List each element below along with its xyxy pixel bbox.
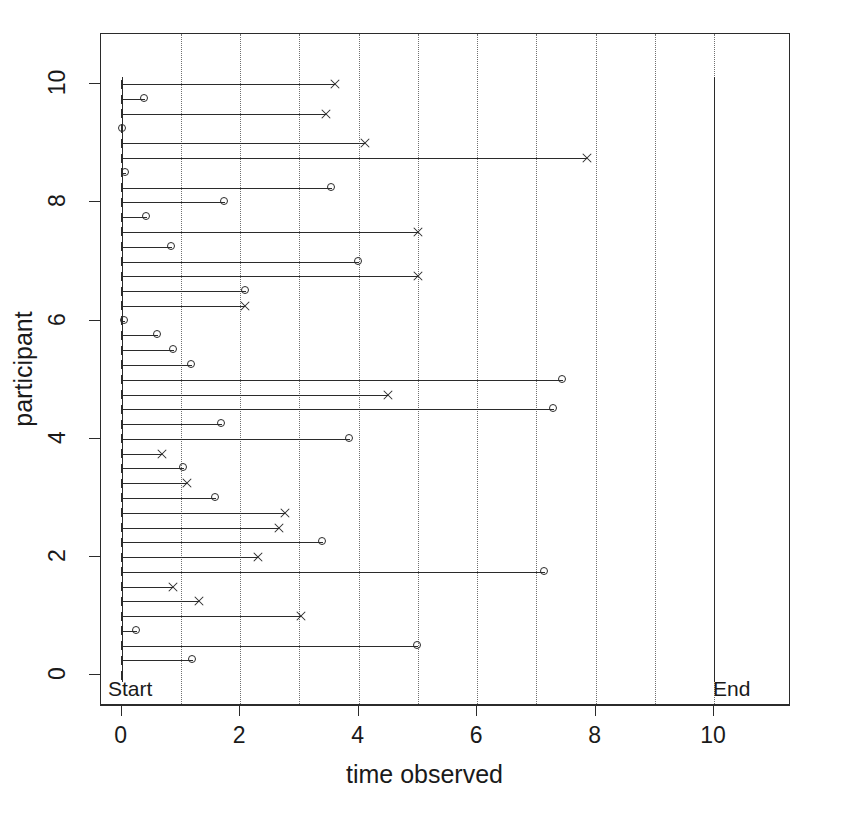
followup-segment (122, 232, 418, 233)
end-label: End (713, 678, 750, 699)
event-cross-icon (412, 226, 424, 238)
x-axis-label: time observed (0, 760, 849, 788)
censored-circle-icon (345, 434, 353, 442)
censored-circle-icon (354, 257, 362, 265)
x-tick-2 (239, 705, 240, 716)
event-cross-icon (193, 595, 205, 607)
plot-area: Start End (100, 33, 790, 705)
y-tick-label-2: 2 (46, 543, 69, 569)
followup-segment (122, 262, 359, 263)
censored-circle-icon (220, 197, 228, 205)
y-tick-label-6: 6 (46, 306, 69, 332)
y-tick-0 (89, 674, 100, 675)
x-tick-6 (476, 705, 477, 716)
followup-segment (122, 498, 217, 499)
censored-circle-icon (179, 463, 187, 471)
y-tick-label-0: 0 (46, 661, 69, 687)
followup-segment (122, 114, 326, 115)
censored-circle-icon (549, 404, 557, 412)
censored-circle-icon (327, 183, 335, 191)
event-cross-icon (295, 610, 307, 622)
grid-line-x-3 (299, 34, 300, 704)
followup-segment (122, 557, 258, 558)
event-cross-icon (279, 507, 291, 519)
event-cross-icon (382, 389, 394, 401)
x-tick-4 (358, 705, 359, 716)
followup-segment (122, 276, 418, 277)
followup-segment (122, 646, 418, 647)
followup-segment (122, 468, 184, 469)
x-tick-label-2: 2 (233, 722, 246, 748)
x-axis-line (100, 705, 790, 706)
y-tick-6 (89, 320, 100, 321)
grid-line-x-2 (240, 34, 241, 704)
event-cross-icon (412, 270, 424, 282)
followup-segment (122, 188, 332, 189)
followup-segment (122, 483, 187, 484)
censored-circle-icon (188, 655, 196, 663)
censored-circle-icon (187, 360, 195, 368)
x-tick-label-0: 0 (114, 722, 127, 748)
censored-circle-icon (241, 286, 249, 294)
censored-circle-icon (120, 316, 128, 324)
event-cross-icon (167, 581, 179, 593)
event-cross-icon (329, 78, 341, 90)
x-tick-10 (713, 705, 714, 716)
grid-line-x-8 (596, 34, 597, 704)
event-cross-icon (359, 137, 371, 149)
grid-line-x-7 (536, 34, 537, 704)
followup-segment (122, 601, 199, 602)
y-tick-4 (89, 438, 100, 439)
followup-segment (122, 350, 174, 351)
followup-segment (122, 439, 350, 440)
followup-segment (122, 247, 172, 248)
y-axis-label: participant (8, 33, 38, 705)
y-tick-2 (89, 556, 100, 557)
x-tick-label-10: 10 (700, 722, 726, 748)
censored-circle-icon (413, 641, 421, 649)
followup-segment (122, 365, 192, 366)
followup-segment (122, 572, 545, 573)
y-tick-label-10: 10 (46, 70, 69, 96)
censored-circle-icon (318, 537, 326, 545)
event-cross-icon (181, 477, 193, 489)
event-cross-icon (156, 448, 168, 460)
event-cross-icon (320, 108, 332, 120)
censored-circle-icon (540, 567, 548, 575)
followup-segment (122, 424, 223, 425)
grid-line-x-1 (181, 34, 182, 704)
followup-segment (122, 660, 193, 661)
followup-segment (122, 513, 285, 514)
event-cross-icon (273, 522, 285, 534)
censored-circle-icon (217, 419, 225, 427)
y-tick-label-8: 8 (46, 188, 69, 214)
censored-circle-icon (121, 168, 129, 176)
censored-circle-icon (167, 242, 175, 250)
followup-segment (122, 409, 554, 410)
followup-segment (122, 616, 301, 617)
followup-segment (122, 143, 365, 144)
grid-line-x-9 (655, 34, 656, 704)
followup-segment (122, 84, 335, 85)
censored-circle-icon (211, 493, 219, 501)
event-cross-icon (252, 551, 264, 563)
event-cross-icon (239, 300, 251, 312)
followup-segment (122, 542, 323, 543)
censored-circle-icon (153, 330, 161, 338)
followup-segment (122, 587, 174, 588)
x-tick-0 (121, 705, 122, 716)
followup-segment (122, 380, 563, 381)
y-tick-10 (89, 83, 100, 84)
survival-followup-plot: Start End 0246810 time observed 0246810 … (0, 0, 849, 821)
grid-line-x-4 (359, 34, 360, 704)
censored-circle-icon (142, 212, 150, 220)
grid-line-x-5 (418, 34, 419, 704)
end-reference-line (714, 77, 715, 682)
x-tick-label-8: 8 (588, 722, 601, 748)
followup-segment (122, 158, 587, 159)
start-label: Start (108, 678, 152, 699)
censored-circle-icon (132, 626, 140, 634)
x-tick-label-6: 6 (470, 722, 483, 748)
followup-segment (122, 306, 245, 307)
x-tick-8 (595, 705, 596, 716)
